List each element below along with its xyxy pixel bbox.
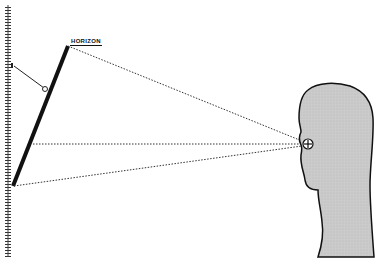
wall xyxy=(5,5,11,257)
sight-lines xyxy=(14,46,302,186)
horizon-label: HORIZON xyxy=(70,38,102,46)
support-arm xyxy=(12,63,48,92)
eye-crosshair-icon xyxy=(303,139,313,149)
pivot-icon xyxy=(43,87,48,92)
head-silhouette xyxy=(299,83,374,257)
mirror-sightline-diagram xyxy=(0,0,381,267)
mirror xyxy=(13,46,68,186)
